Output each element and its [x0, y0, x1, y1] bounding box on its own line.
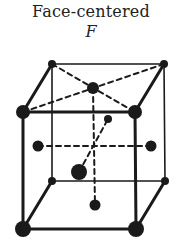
corner-atom [15, 221, 31, 237]
face-center-atom-top [87, 82, 99, 94]
corner-atom [16, 105, 30, 119]
face-center-atom-back [104, 115, 112, 123]
face-center-atom-bottom [90, 200, 101, 211]
corner-atom [48, 177, 56, 185]
corner-atom [48, 60, 56, 68]
corner-atom [128, 221, 144, 237]
corner-atom [160, 60, 168, 68]
face-center-atom-right [146, 141, 157, 152]
fcc-unit-cell-diagram [0, 0, 182, 245]
face-center-atom-left [33, 141, 44, 152]
face-center-atom-front [71, 164, 87, 180]
corner-atom [128, 105, 142, 119]
corner-atom [161, 177, 169, 185]
